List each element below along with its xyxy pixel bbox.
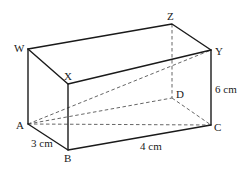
vertex-label-Y: Y xyxy=(215,45,223,57)
dimension-CY: 6 cm xyxy=(215,83,237,95)
edges-WX-XY xyxy=(28,49,211,84)
diagonal-AC xyxy=(28,124,211,125)
vertex-label-C: C xyxy=(214,121,221,133)
cuboid-diagram: W X Z Y A B C D 3 cm 4 cm 6 cm xyxy=(0,0,249,169)
diagonal-AY xyxy=(28,50,211,124)
vertex-label-D: D xyxy=(176,88,184,100)
edge-DC xyxy=(172,98,211,125)
vertex-label-Z: Z xyxy=(167,10,174,22)
edges-AB-BC xyxy=(28,124,211,150)
edge-AD xyxy=(28,98,172,124)
dimension-BC: 4 cm xyxy=(140,140,162,152)
vertex-label-A: A xyxy=(16,119,24,131)
vertex-label-B: B xyxy=(64,152,71,164)
vertex-label-W: W xyxy=(14,42,25,54)
vertex-label-X: X xyxy=(64,70,72,82)
dimension-AB: 3 cm xyxy=(31,137,53,149)
edges-WZ-ZY xyxy=(28,24,211,50)
